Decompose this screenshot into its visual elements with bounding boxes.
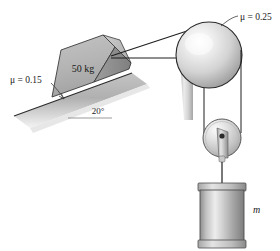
physics-figure: 50 kg μ = 0.25 μ = 0.15 — [0, 0, 280, 251]
pulley-axle-pin — [219, 133, 224, 138]
hanging-mass-label: m — [253, 204, 260, 215]
fixed-drum — [176, 22, 242, 120]
drum-highlight — [185, 33, 213, 55]
cylinder-bottom-cap — [198, 240, 246, 248]
incline-friction-label: μ = 0.15 — [10, 75, 42, 85]
drum-friction-annotation: μ = 0.25 — [221, 12, 272, 26]
drum-circle — [176, 22, 242, 88]
pulley-yoke — [217, 128, 228, 158]
hanging-cylinder-mass: m — [198, 183, 260, 248]
movable-pulley — [203, 119, 241, 162]
drum-friction-leader — [221, 16, 238, 26]
figure-canvas: 50 kg μ = 0.25 μ = 0.15 — [0, 0, 280, 251]
pulley-hanger-eye — [219, 156, 225, 162]
block-mass-label: 50 kg — [72, 63, 95, 74]
cylinder-body — [200, 190, 244, 242]
drum-friction-label: μ = 0.25 — [240, 12, 272, 22]
incline-angle-label: 20° — [92, 106, 105, 116]
